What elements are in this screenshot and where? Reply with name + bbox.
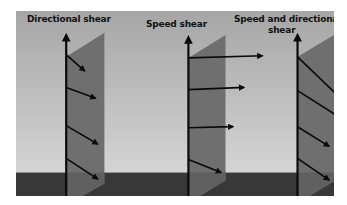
title-directional-shear: Directional shear	[27, 14, 111, 25]
title-speed-and-directional-shear-line2: shear	[268, 25, 295, 36]
panel-directional-shear	[66, 33, 104, 196]
wind-shear-diagram	[16, 10, 334, 196]
wind-arrow	[188, 127, 233, 128]
title-speed-shear: Speed shear	[146, 19, 207, 30]
diagram-frame: Directional shear Speed shear Speed and …	[16, 10, 334, 196]
ground	[16, 173, 334, 196]
title-speed-and-directional-shear-line1: Speed and directional	[234, 14, 334, 25]
panel-speed-and-directional-shear	[298, 34, 334, 196]
